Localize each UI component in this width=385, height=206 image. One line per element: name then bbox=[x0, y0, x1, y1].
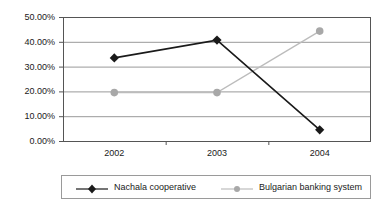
legend-label: Bulgarian banking system bbox=[259, 182, 362, 192]
x-axis-tick-label: 2004 bbox=[310, 148, 330, 158]
legend-item-nachala-cooperative: Nachala cooperative bbox=[74, 176, 196, 198]
data-point-marker bbox=[316, 27, 324, 35]
legend-item-bulgarian-banking-system: Bulgarian banking system bbox=[219, 176, 362, 198]
x-axis-tick-label: 2003 bbox=[207, 148, 227, 158]
chart-legend: Nachala cooperative Bulgarian banking sy… bbox=[61, 175, 371, 199]
legend-label: Nachala cooperative bbox=[114, 182, 196, 192]
data-point-marker bbox=[213, 89, 221, 97]
legend-marker-diamond-icon bbox=[74, 181, 110, 193]
data-point-marker bbox=[111, 89, 119, 97]
data-point-marker bbox=[110, 53, 119, 62]
line-chart: 0.00%10.00%20.00%30.00%40.00%50.00% 2002… bbox=[0, 0, 385, 206]
x-axis-tick-label: 2002 bbox=[104, 148, 124, 158]
legend-marker-circle-icon bbox=[219, 181, 255, 193]
